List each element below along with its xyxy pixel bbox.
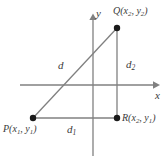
point-q-label-head: Q(x bbox=[113, 5, 128, 16]
point-p-label-mid: , y bbox=[20, 123, 29, 134]
segment-d-label: d bbox=[58, 60, 64, 71]
y-axis-label: y bbox=[96, 8, 101, 19]
point-r-label-mid: , y bbox=[139, 112, 148, 123]
segment-d-label-head: d bbox=[58, 59, 64, 71]
coordinate-plane-canvas bbox=[0, 0, 168, 162]
point-p-dot bbox=[30, 115, 36, 121]
point-p-label-sub1: 1 bbox=[17, 128, 20, 135]
point-q-label: Q(x2, y2) bbox=[113, 6, 148, 16]
distance-formula-figure: y x Q(x2, y2) P(x1, y1) R(x2, y1) d d1 d… bbox=[0, 0, 168, 162]
x-axis bbox=[20, 81, 160, 88]
segment-d2-label-sub: 2 bbox=[132, 63, 136, 72]
point-q-label-mid: , y bbox=[131, 5, 140, 16]
point-p-label-head: P(x bbox=[3, 123, 17, 134]
segment-d2-label: d2 bbox=[126, 59, 135, 70]
segment-d1-label: d1 bbox=[67, 124, 76, 135]
point-p-label-sub2: 1 bbox=[30, 128, 33, 135]
point-q-label-sub2: 2 bbox=[141, 10, 144, 17]
point-r-label-sub1: 2 bbox=[136, 117, 139, 124]
x-axis-arrowhead-icon bbox=[153, 81, 160, 88]
point-r-label-head: R(x bbox=[122, 112, 136, 123]
segment-d2-label-head: d bbox=[126, 58, 132, 70]
point-r-label-close: ) bbox=[152, 112, 155, 123]
point-q-dot bbox=[114, 25, 120, 31]
x-axis-label: x bbox=[155, 90, 160, 101]
segment-hypotenuse-d bbox=[33, 28, 117, 118]
point-r-label: R(x2, y1) bbox=[122, 113, 156, 123]
segment-d1-label-head: d bbox=[67, 123, 73, 135]
point-p-label: P(x1, y1) bbox=[3, 124, 37, 134]
point-r-label-sub2: 1 bbox=[149, 117, 152, 124]
point-r-dot bbox=[114, 115, 120, 121]
point-q-label-sub1: 2 bbox=[128, 10, 131, 17]
point-p-label-close: ) bbox=[33, 123, 36, 134]
point-q-label-close: ) bbox=[144, 5, 147, 16]
segment-d1-label-sub: 1 bbox=[73, 128, 77, 137]
